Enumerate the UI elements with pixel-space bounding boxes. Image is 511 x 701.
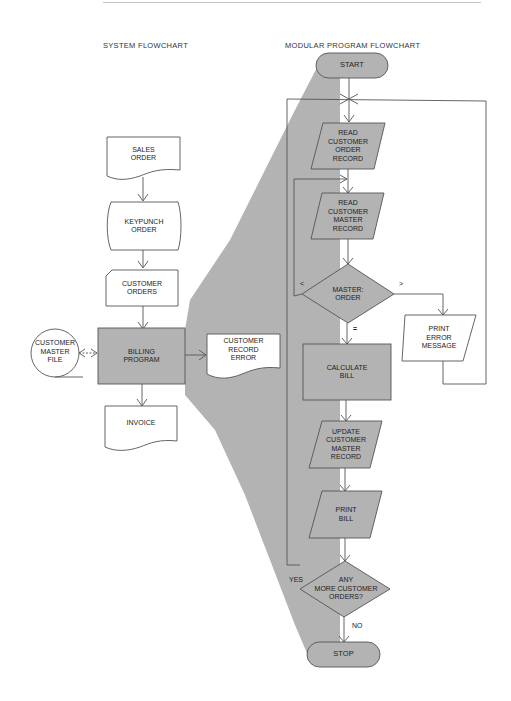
- system-flowchart-title: SYSTEM FLOWCHART: [103, 41, 188, 50]
- edge-label-less: <: [300, 280, 304, 287]
- flowchart-figure: SYSTEM FLOWCHART MODULAR PROGRAM FLOWCHA…: [0, 0, 511, 701]
- keypunch-order-label: KEYPUNCH ORDER: [108, 204, 180, 248]
- edge-label-yes: YES: [289, 576, 303, 583]
- edge-label-greater: >: [399, 280, 403, 287]
- read-order-record-label: READ CUSTOMER ORDER RECORD: [313, 124, 383, 168]
- update-master-record-label: UPDATE CUSTOMER MASTER RECORD: [312, 422, 380, 467]
- edge-label-equal: =: [353, 325, 357, 332]
- print-bill-label: PRINT BILL: [312, 492, 380, 537]
- customer-orders-label: CUSTOMER ORDERS: [106, 271, 178, 305]
- billing-program-label: BILLING PROGRAM: [98, 330, 185, 382]
- read-master-record-label: READ CUSTOMER MASTER RECORD: [313, 194, 383, 238]
- edge-label-no: NO: [352, 622, 363, 629]
- customer-record-error-label: CUSTOMER RECORD ERROR: [207, 334, 280, 366]
- stop-label: STOP: [307, 642, 380, 667]
- calculate-bill-label: CALCULATE BILL: [303, 345, 391, 399]
- modular-flowchart-title: MODULAR PROGRAM FLOWCHART: [285, 41, 420, 50]
- invoice-label: INVOICE: [105, 408, 177, 438]
- start-label: START: [316, 53, 388, 78]
- more-orders-label: ANY MORE CUSTOMER ORDERS?: [306, 575, 386, 603]
- sales-order-label: SALES ORDER: [107, 139, 180, 169]
- print-error-message-label: PRINT ERROR MESSAGE: [405, 316, 473, 360]
- customer-master-file-label: CUSTOMER MASTER FILE: [26, 332, 84, 372]
- master-order-label: MASTER: ORDER: [315, 280, 381, 308]
